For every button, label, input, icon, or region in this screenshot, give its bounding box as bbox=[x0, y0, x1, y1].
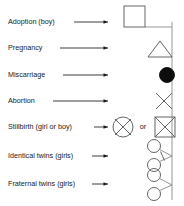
stillbirth-or-label: or bbox=[140, 122, 147, 131]
arrowhead-icon bbox=[104, 99, 109, 103]
row-label-stillbirth: Stillbirth (girl or boy) bbox=[8, 122, 72, 131]
arrow-adoption-boy bbox=[74, 20, 108, 24]
pedigree-legend-canvas: Adoption (boy) Pregnancy Miscarriage Abo bbox=[0, 0, 184, 206]
symbol-miscarriage bbox=[160, 68, 175, 83]
symbol-adoption-boy bbox=[124, 6, 172, 27]
arrowhead-icon bbox=[104, 46, 109, 50]
arrowhead-icon bbox=[104, 182, 109, 186]
row-label-adoption-boy: Adoption (boy) bbox=[8, 17, 55, 26]
symbol-abortion bbox=[156, 93, 172, 109]
arrowhead-icon bbox=[104, 125, 109, 129]
arrow-pregnancy bbox=[60, 46, 108, 50]
symbol-identical-twins bbox=[148, 140, 173, 172]
row-label-abortion: Abortion bbox=[8, 96, 35, 105]
identical-twins-crossbar bbox=[161, 152, 165, 161]
arrowhead-icon bbox=[104, 20, 109, 24]
arrow-abortion bbox=[53, 99, 108, 103]
arrow-miscarriage bbox=[63, 73, 108, 77]
symbol-fraternal-twins bbox=[148, 169, 173, 201]
arrowhead-icon bbox=[104, 73, 109, 77]
arrow-fraternal-twins bbox=[92, 182, 108, 186]
arrow-identical-twins bbox=[92, 154, 108, 158]
symbol-pregnancy bbox=[148, 41, 172, 57]
arrowhead-icon bbox=[104, 154, 109, 158]
row-label-fraternal-twins: Fraternal twins (girls) bbox=[8, 179, 75, 188]
row-label-identical-twins: Identical twins (girls) bbox=[8, 151, 73, 160]
arrow-stillbirth bbox=[94, 125, 108, 129]
pedigree-legend: Adoption (boy) Pregnancy Miscarriage Abo bbox=[0, 0, 184, 206]
symbol-stillbirth-girl bbox=[113, 117, 133, 137]
row-label-miscarriage: Miscarriage bbox=[8, 70, 45, 79]
row-label-pregnancy: Pregnancy bbox=[8, 43, 43, 52]
